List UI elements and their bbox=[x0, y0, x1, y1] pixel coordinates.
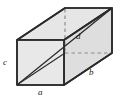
edge-label-b: b bbox=[89, 68, 94, 77]
edge-label-c: c bbox=[3, 58, 7, 67]
edge-label-a: a bbox=[38, 88, 43, 97]
box-front-face bbox=[17, 40, 64, 85]
geometry-figure-container: c a b d bbox=[0, 0, 125, 102]
diagonal-label-d: d bbox=[76, 32, 81, 41]
rectangular-box-diagram bbox=[0, 0, 125, 102]
